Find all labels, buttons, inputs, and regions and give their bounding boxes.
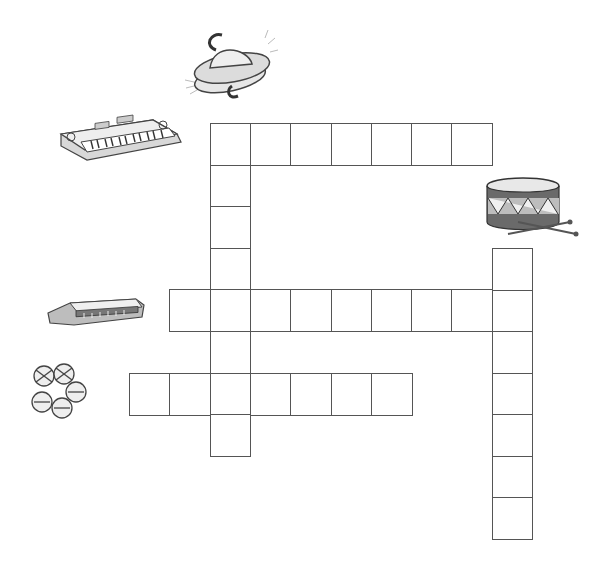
crossword-cell[interactable] [210,165,252,208]
crossword-cell[interactable] [129,373,171,416]
crossword-cell[interactable] [250,123,292,166]
crossword-cell[interactable] [331,373,373,416]
crossword-cell[interactable] [492,248,534,291]
crossword-cell[interactable] [451,123,493,166]
crossword-cell[interactable] [210,248,252,291]
crossword-cell[interactable] [290,123,332,166]
crossword-cell[interactable] [492,456,534,499]
crossword-board [0,0,605,564]
harmonica-icon [44,291,148,331]
crossword-cell[interactable] [492,414,534,457]
crossword-cell[interactable] [492,373,534,416]
crossword-cell[interactable] [169,373,211,416]
crossword-cell[interactable] [290,289,332,332]
crossword-cell[interactable] [210,289,252,332]
bells-icon [28,362,90,422]
crossword-cell[interactable] [492,289,534,332]
crossword-cell[interactable] [290,373,332,416]
crossword-cell[interactable] [210,414,252,457]
crossword-cell[interactable] [250,289,292,332]
crossword-cell[interactable] [210,206,252,249]
crossword-cell[interactable] [210,331,252,374]
crossword-cell[interactable] [331,289,373,332]
crossword-cell[interactable] [210,373,252,416]
crossword-cell[interactable] [331,123,373,166]
cymbals-icon [180,20,280,105]
drum-icon [478,174,583,244]
crossword-cell[interactable] [492,331,534,374]
crossword-cell[interactable] [371,289,413,332]
crossword-cell[interactable] [371,373,413,416]
crossword-cell[interactable] [411,289,453,332]
crossword-cell[interactable] [451,289,493,332]
crossword-cell[interactable] [492,497,534,540]
keyboard-icon [55,112,183,167]
crossword-cell[interactable] [411,123,453,166]
crossword-cell[interactable] [371,123,413,166]
crossword-cell[interactable] [210,123,252,166]
crossword-cell[interactable] [250,373,292,416]
crossword-cell[interactable] [169,289,211,332]
